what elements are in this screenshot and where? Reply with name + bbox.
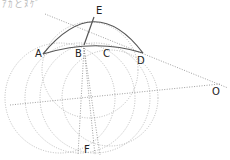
label-a: A [35, 48, 42, 59]
label-d: D [137, 55, 145, 66]
label-c: C [103, 48, 110, 59]
geometry-diagram: A B C D E F O [0, 0, 230, 160]
label-f: F [84, 144, 90, 155]
solid-arcs [43, 17, 143, 54]
label-b: B [75, 48, 82, 59]
label-e: E [96, 5, 102, 16]
construction-circles [5, 22, 158, 153]
construction-lines [10, 14, 228, 155]
label-o: O [212, 86, 220, 97]
